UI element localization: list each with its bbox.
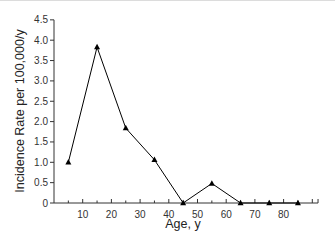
y-tick-label: 4.0 xyxy=(34,35,48,46)
line-chart: 00.51.01.52.02.53.03.54.04.5102030405060… xyxy=(0,0,335,245)
y-tick-label: 0 xyxy=(42,198,48,209)
y-tick-label: 3.5 xyxy=(34,55,48,66)
x-tick-label: 70 xyxy=(249,209,261,220)
triangle-marker xyxy=(123,125,129,131)
triangle-marker xyxy=(94,44,100,50)
triangle-marker xyxy=(266,200,272,206)
data-series xyxy=(65,44,301,205)
y-axis-title: Incidence Rate per 100,000/y xyxy=(13,29,27,193)
series-line xyxy=(68,47,298,203)
x-tick-label: 10 xyxy=(77,209,89,220)
x-tick-label: 80 xyxy=(278,209,290,220)
triangle-marker xyxy=(295,200,301,206)
x-axis-title: Age, y xyxy=(165,217,201,231)
x-tick-label: 60 xyxy=(221,209,233,220)
x-tick-label: 20 xyxy=(106,209,118,220)
axes: 00.51.01.52.02.53.03.54.04.5102030405060… xyxy=(34,14,318,220)
y-tick-label: 3.0 xyxy=(34,75,48,86)
y-tick-label: 1.5 xyxy=(34,136,48,147)
y-tick-label: 0.5 xyxy=(34,177,48,188)
y-tick-label: 1.0 xyxy=(34,157,48,168)
y-tick-label: 2.5 xyxy=(34,96,48,107)
y-tick-label: 4.5 xyxy=(34,14,48,25)
triangle-marker xyxy=(209,180,215,186)
y-tick-label: 2.0 xyxy=(34,116,48,127)
x-tick-label: 30 xyxy=(135,209,147,220)
triangle-marker xyxy=(238,200,244,206)
triangle-marker xyxy=(65,159,71,165)
